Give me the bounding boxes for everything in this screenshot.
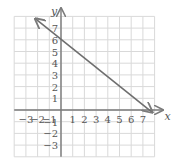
x-tick-label: 3 — [93, 114, 99, 125]
y-tick-label: −1 — [43, 117, 58, 128]
x-tick-label: 5 — [116, 114, 122, 125]
y-axis-label: y — [50, 5, 58, 18]
y-tick-label: −3 — [43, 140, 58, 151]
coordinate-plane: xy−3−2−11234567−3−2−11234567 — [0, 0, 178, 165]
y-tick-label: 4 — [52, 58, 58, 69]
y-tick-label: 2 — [52, 82, 58, 93]
y-tick-label: 1 — [52, 93, 58, 104]
x-tick-label: 1 — [70, 114, 76, 125]
x-tick-label: 6 — [128, 114, 134, 125]
x-axis-label: x — [165, 110, 172, 123]
y-tick-label: 3 — [52, 70, 58, 81]
y-tick-label: −2 — [43, 128, 58, 139]
x-tick-label: 4 — [105, 114, 111, 125]
y-tick-label: 5 — [52, 47, 58, 58]
x-tick-label: 2 — [81, 114, 87, 125]
x-tick-label: 7 — [140, 114, 146, 125]
